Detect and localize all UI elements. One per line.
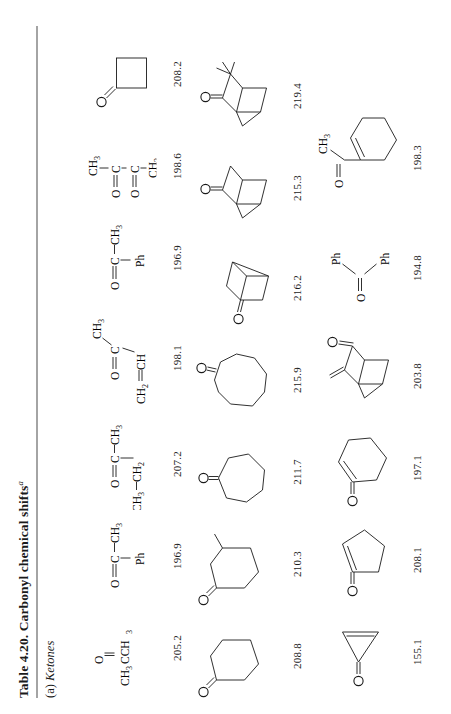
svg-text:CH: CH xyxy=(134,354,146,370)
structure-acetone: O CH 3 CCH 3 xyxy=(68,602,156,694)
svg-text:O: O xyxy=(108,580,120,588)
shift-value: 211.7 xyxy=(290,426,302,518)
shift-value: 219.4 xyxy=(290,50,302,142)
structure-acetophenone-2: O C CH 3 Ph xyxy=(68,212,156,304)
shift-value: 155.1 xyxy=(410,606,422,698)
page-title: Table 4.20. Carbonyl chemical shiftsa xyxy=(14,481,32,698)
table-row: 155.1 208.1 xyxy=(306,0,424,714)
entry-benzophenone: O Ph Ph 194.8 xyxy=(306,222,424,314)
svg-text:Ph: Ph xyxy=(133,553,145,565)
shift-value: 198.3 xyxy=(410,112,422,204)
svg-text:3: 3 xyxy=(114,425,123,429)
shift-value: 210.3 xyxy=(290,518,302,610)
svg-text:C: C xyxy=(108,555,120,563)
svg-text:CH: CH xyxy=(86,160,98,176)
svg-text:CH: CH xyxy=(90,323,102,339)
entry-cyclooctanone: 215.9 xyxy=(186,334,304,426)
title-footnote-marker: a xyxy=(14,481,24,485)
svg-text:CH: CH xyxy=(316,138,328,154)
svg-text:C: C xyxy=(108,346,120,354)
svg-text:CH: CH xyxy=(146,162,156,178)
structure-methylcyclohexanone xyxy=(188,518,276,610)
structure-cyclohexanone xyxy=(188,610,276,702)
shift-value: 215.9 xyxy=(290,334,302,426)
structure-cyclopropenone xyxy=(308,606,396,698)
structure-1-acetylcyclohexene: O CH 3 xyxy=(308,112,396,204)
shift-value: 208.8 xyxy=(290,610,302,702)
shift-value: 196.9 xyxy=(170,510,182,602)
entry-camphor: 219.4 xyxy=(186,50,304,142)
section-label-prefix: (a) xyxy=(42,684,56,698)
entry-bicyclooctanone: 216.2 xyxy=(186,242,304,334)
entry-1-acetylcyclohexene: O CH 3 198.3 xyxy=(306,112,424,204)
section-heading: (a) Ketones xyxy=(42,641,57,698)
structure-benzophenone: O Ph Ph xyxy=(308,222,396,314)
structure-cyclohexenone xyxy=(308,422,396,514)
svg-text:CH: CH xyxy=(130,466,142,482)
svg-text:O: O xyxy=(128,190,140,198)
svg-text:C: C xyxy=(108,257,120,265)
svg-text:3: 3 xyxy=(92,156,101,160)
svg-text:C: C xyxy=(108,455,120,463)
table-caption: Carbonyl chemical shifts xyxy=(16,486,31,632)
shift-value: 215.3 xyxy=(290,142,302,234)
svg-text:2: 2 xyxy=(136,462,145,466)
svg-text:3: 3 xyxy=(124,666,133,670)
svg-text:CCH: CCH xyxy=(118,640,130,664)
svg-text:O: O xyxy=(108,372,120,380)
svg-text:CH: CH xyxy=(130,496,142,510)
shift-value: 205.2 xyxy=(170,602,182,694)
shift-value: 194.8 xyxy=(410,222,422,314)
svg-text:O: O xyxy=(354,294,366,302)
entry-cyclobutanone: 208.2 xyxy=(66,28,184,120)
svg-text:O: O xyxy=(332,180,344,188)
table-number: Table 4.20. xyxy=(16,635,31,698)
shift-value: 208.1 xyxy=(410,514,422,606)
entry-acetophenone-2: O C CH 3 Ph 196.9 xyxy=(66,212,184,304)
structure-cycloheptanone xyxy=(188,426,276,518)
structure-2-butanone: CH 3 CH 2 C O CH 3 xyxy=(68,418,156,510)
entry-acetophenone: O C CH 3 Ph 196.9 xyxy=(66,510,184,602)
svg-text:C: C xyxy=(109,165,121,173)
entry-2-butanone: CH 3 CH 2 C O CH 3 207. xyxy=(66,418,184,510)
svg-text:C: C xyxy=(128,165,140,173)
svg-text:CH: CH xyxy=(108,229,120,245)
table-row: 208.8 210.3 xyxy=(186,0,304,714)
structure-bicyclooctanone xyxy=(188,242,276,334)
svg-text:CH: CH xyxy=(108,527,120,543)
structure-cyclobutanone xyxy=(68,28,156,120)
shift-value: 208.2 xyxy=(170,28,182,120)
shift-value: 203.8 xyxy=(410,330,422,422)
svg-text:Ph: Ph xyxy=(133,255,145,267)
entry-biacetyl: CH 3 C O C O CH 3 xyxy=(66,120,184,212)
structure-acetophenone: O C CH 3 Ph xyxy=(68,510,156,602)
header-rule xyxy=(36,26,37,698)
structure-norbornanone xyxy=(188,142,276,234)
structure-cyclopentenone xyxy=(308,514,396,606)
section-label: Ketones xyxy=(42,641,56,681)
svg-text:3: 3 xyxy=(96,319,105,323)
shift-value: 198.1 xyxy=(170,312,182,404)
entry-norbornanone: 215.3 xyxy=(186,142,304,234)
shift-value: 207.2 xyxy=(170,418,182,510)
scanned-table-page: Table 4.20. Carbonyl chemical shiftsa (a… xyxy=(0,0,451,714)
shift-value: 198.6 xyxy=(170,120,182,212)
shift-value: 216.2 xyxy=(290,242,302,334)
svg-text:3: 3 xyxy=(136,492,145,496)
svg-text:Ph: Ph xyxy=(329,253,341,265)
structure-methylene-norbornanone xyxy=(308,330,396,422)
svg-text:CH: CH xyxy=(108,429,120,445)
svg-text:2: 2 xyxy=(140,384,149,388)
svg-text:O: O xyxy=(109,190,121,198)
entry-cyclohexenone: 197.1 xyxy=(306,422,424,514)
entry-cycloheptanone: 211.7 xyxy=(186,426,304,518)
page-wrapper: Table 4.20. Carbonyl chemical shiftsa (a… xyxy=(0,0,451,714)
entry-methylene-norbornanone: 203.8 xyxy=(306,330,424,422)
svg-text:3: 3 xyxy=(124,630,133,634)
entry-cyclohexanone: 208.8 xyxy=(186,610,304,702)
shift-value: 196.9 xyxy=(170,212,182,304)
svg-text:CH: CH xyxy=(134,388,146,404)
svg-text:CH: CH xyxy=(118,670,130,686)
svg-text:3: 3 xyxy=(322,134,331,138)
svg-text:3: 3 xyxy=(114,225,123,229)
